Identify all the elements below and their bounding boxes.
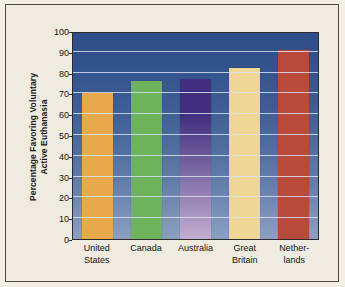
y-tick-label: 90 bbox=[47, 48, 69, 57]
x-tick-label-line: United bbox=[84, 243, 110, 253]
x-tick-label: Australia bbox=[171, 243, 219, 266]
plot-area bbox=[72, 32, 319, 240]
x-tick-label-line: Britain bbox=[232, 255, 258, 265]
x-tick-label-line: Nether- bbox=[279, 243, 309, 253]
bar-series bbox=[73, 33, 318, 239]
bar bbox=[180, 79, 211, 239]
x-tick-label: UnitedStates bbox=[73, 243, 121, 266]
y-tick-label: 100 bbox=[47, 28, 69, 37]
y-tick-label: 0 bbox=[47, 236, 69, 245]
gridline bbox=[73, 72, 318, 73]
y-tick-label: 70 bbox=[47, 90, 69, 99]
y-tick-label: 50 bbox=[47, 132, 69, 141]
y-tick-label: 10 bbox=[47, 215, 69, 224]
gridline bbox=[73, 217, 318, 218]
gridline bbox=[73, 196, 318, 197]
y-tick-label: 20 bbox=[47, 194, 69, 203]
bar bbox=[131, 81, 162, 239]
gridline bbox=[73, 92, 318, 93]
y-tick-label: 60 bbox=[47, 111, 69, 120]
y-tick-mark bbox=[69, 240, 72, 241]
y-axis-title-line-1: Percentage Favoring Voluntary bbox=[28, 73, 38, 201]
chart-frame: Percentage Favoring Voluntary Active Eut… bbox=[5, 4, 339, 282]
y-axis-ticks: 0102030405060708090100 bbox=[44, 32, 69, 240]
gridline bbox=[73, 155, 318, 156]
x-tick-label-line: Canada bbox=[130, 243, 162, 253]
bar bbox=[229, 68, 260, 239]
y-tick-label: 30 bbox=[47, 173, 69, 182]
x-tick-label: GreatBritain bbox=[221, 243, 269, 266]
x-tick-label-line: States bbox=[84, 255, 110, 265]
y-tick-label: 40 bbox=[47, 152, 69, 161]
x-tick-label-line: Great bbox=[234, 243, 257, 253]
bar bbox=[278, 50, 309, 239]
gridline bbox=[73, 134, 318, 135]
chart-figure: Percentage Favoring Voluntary Active Eut… bbox=[0, 0, 345, 287]
gridline bbox=[73, 113, 318, 114]
x-tick-label: Canada bbox=[122, 243, 170, 266]
x-tick-label: Nether-lands bbox=[270, 243, 318, 266]
gridline bbox=[73, 176, 318, 177]
x-tick-label-line: lands bbox=[283, 255, 305, 265]
gridline bbox=[73, 51, 318, 52]
x-tick-label-line: Australia bbox=[178, 243, 213, 253]
x-axis-labels: UnitedStatesCanadaAustraliaGreatBritainN… bbox=[72, 243, 319, 266]
y-tick-label: 80 bbox=[47, 69, 69, 78]
